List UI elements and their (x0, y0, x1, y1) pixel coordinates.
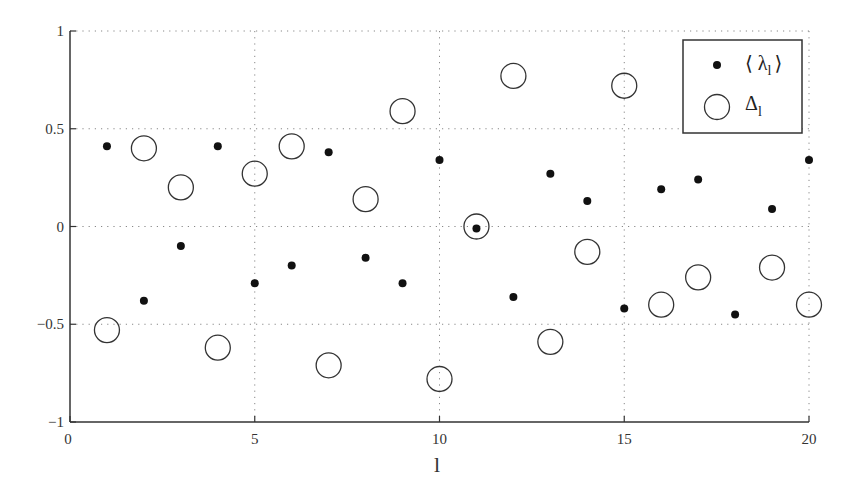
data-point-circle (94, 318, 119, 343)
data-point-circle (316, 353, 341, 378)
y-tick-label: 0 (57, 219, 65, 235)
data-point-circle (686, 265, 711, 290)
x-tick-labels: 05101520 (64, 431, 816, 447)
data-point-circle (649, 292, 674, 317)
data-point-circle (538, 329, 563, 354)
data-point-circle (501, 63, 526, 88)
y-tick-label: 0.5 (45, 121, 64, 137)
data-point-circle (279, 134, 304, 159)
x-tick-label: 0 (64, 431, 72, 447)
data-point-circle (353, 187, 378, 212)
data-point-dot (325, 148, 333, 156)
data-point-dot (694, 176, 702, 184)
data-point-dot (583, 197, 591, 205)
legend-dot-icon (713, 61, 721, 69)
data-point-circle (612, 73, 637, 98)
data-point-dot (140, 297, 148, 305)
series-lambda-dots (103, 142, 813, 318)
data-point-dot (509, 293, 517, 301)
data-point-circle (168, 175, 193, 200)
x-tick-label: 20 (802, 431, 817, 447)
data-point-dot (436, 156, 444, 164)
data-point-dot (288, 262, 296, 270)
data-point-dot (399, 279, 407, 287)
legend-box (683, 40, 802, 133)
x-tick-label: 15 (617, 431, 632, 447)
x-tick-label: 10 (432, 431, 447, 447)
data-point-dot (362, 254, 370, 262)
data-point-dot (620, 305, 628, 313)
data-point-dot (251, 279, 259, 287)
y-tick-label: −1 (48, 414, 64, 430)
y-tick-labels: −1−0.500.51 (37, 23, 64, 430)
data-point-dot (214, 142, 222, 150)
data-point-circle (575, 239, 600, 264)
data-point-dot (177, 242, 185, 250)
x-tick-label: 5 (251, 431, 259, 447)
data-point-dot (546, 170, 554, 178)
data-point-circle (205, 335, 230, 360)
data-point-circle (390, 99, 415, 124)
data-point-circle (760, 255, 785, 280)
y-tick-label: −0.5 (37, 316, 64, 332)
data-point-dot (103, 142, 111, 150)
y-tick-label: 1 (57, 23, 65, 39)
data-point-dot (768, 205, 776, 213)
data-point-dot (472, 224, 480, 232)
x-axis-label: l (434, 452, 440, 477)
data-point-dot (657, 185, 665, 193)
data-point-dot (805, 156, 813, 164)
data-point-dot (731, 310, 739, 318)
data-point-circle (131, 136, 156, 161)
legend: ⟨ λl⟩ Δl (683, 40, 802, 133)
scatter-chart: −1−0.500.51 05101520 l ⟨ λl⟩ Δl (0, 0, 844, 489)
